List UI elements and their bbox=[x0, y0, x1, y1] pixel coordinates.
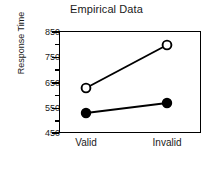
y-tick-mark-650 bbox=[52, 82, 59, 84]
y-axis-label: Response Time bbox=[16, 0, 26, 91]
y-tick-mark-850 bbox=[52, 31, 59, 33]
chart-title: Empirical Data bbox=[0, 3, 213, 15]
x-tick-label-invalid: Invalid bbox=[153, 137, 182, 148]
x-tick-label-valid: Valid bbox=[75, 137, 97, 148]
y-tick-mark-750 bbox=[52, 57, 59, 59]
y-tick-mark-550 bbox=[52, 108, 59, 110]
y-tick-mark-450 bbox=[52, 132, 59, 134]
plot-area bbox=[59, 31, 201, 133]
chart-figure: Empirical Data Response Time 850 750 650… bbox=[0, 0, 213, 169]
